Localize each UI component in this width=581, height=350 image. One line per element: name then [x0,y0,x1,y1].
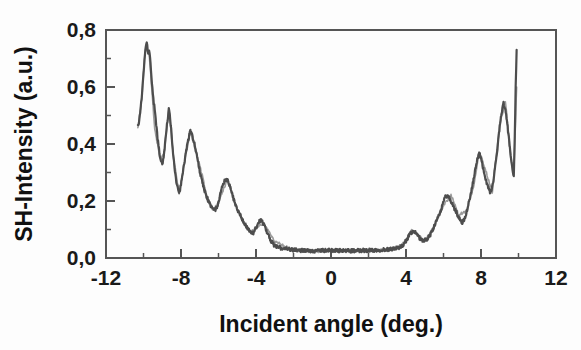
chart-plot: -12-8-404812 0,00,20,40,60,8 Incident an… [0,0,581,350]
y-axis-title: SH-Intensity (a.u.) [11,46,37,242]
x-axis-tick-labels: -12-8-404812 [91,266,568,289]
x-tick-label: 8 [475,266,487,289]
x-axis-title: Incident angle (deg.) [219,311,443,337]
x-tick-label: -12 [91,266,121,289]
y-axis-tick-labels: 0,00,20,40,60,8 [67,18,97,269]
data-series-group [138,42,517,252]
y-tick-label: 0,6 [67,75,96,98]
y-tick-label: 0,0 [67,246,96,269]
y-axis-ticks [106,30,115,258]
y-tick-label: 0,8 [67,18,97,41]
data-line-main [138,42,517,252]
y-tick-label: 0,2 [67,189,96,212]
x-tick-label: -4 [247,266,266,289]
x-tick-label: 12 [544,266,567,289]
x-tick-label: 4 [400,266,412,289]
figure-container: -12-8-404812 0,00,20,40,60,8 Incident an… [0,0,581,350]
plot-frame-rect [106,30,556,258]
data-line-faint [138,49,517,252]
plot-frame [106,30,556,258]
y-tick-label: 0,4 [67,132,97,155]
x-tick-label: -8 [172,266,191,289]
x-tick-label: 0 [325,266,337,289]
